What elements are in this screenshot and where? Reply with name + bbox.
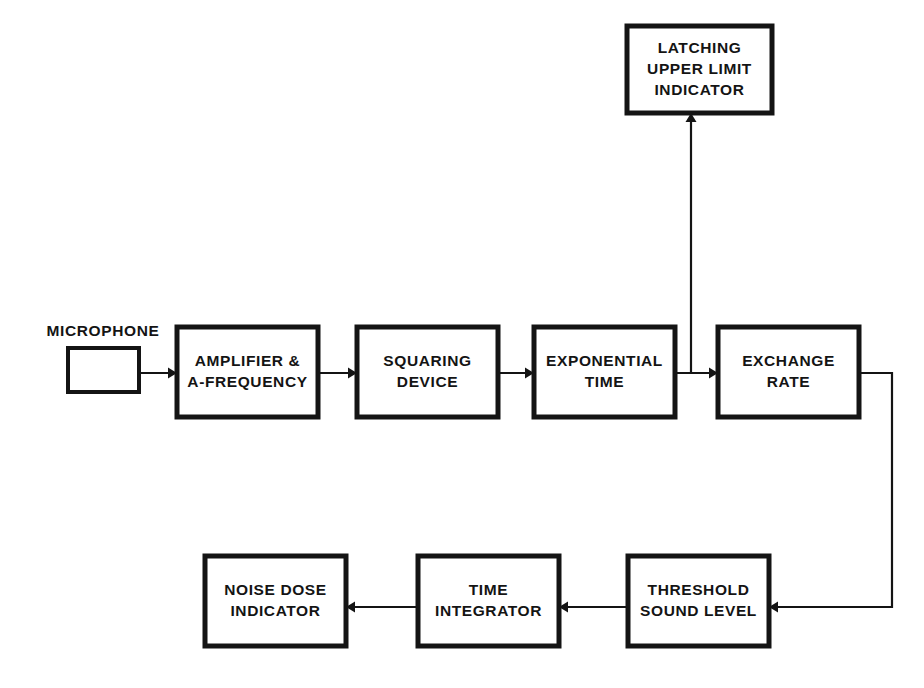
connector-amplifier-to-squaring bbox=[318, 368, 357, 379]
connector-microphone-to-amplifier bbox=[139, 368, 177, 379]
blocks-layer: AMPLIFIER &A-FREQUENCYSQUARINGDEVICEEXPO… bbox=[68, 26, 859, 646]
connector-exponential-to-exchange bbox=[675, 368, 718, 379]
block-diagram-canvas: AMPLIFIER &A-FREQUENCYSQUARINGDEVICEEXPO… bbox=[0, 0, 924, 688]
block-diagram-svg: AMPLIFIER &A-FREQUENCYSQUARINGDEVICEEXPO… bbox=[0, 0, 924, 688]
connector-exponential-to-latching bbox=[686, 113, 697, 373]
connector-integrator-to-noisedose bbox=[346, 602, 418, 613]
squaring-device-block[interactable]: SQUARINGDEVICE bbox=[357, 327, 498, 417]
external-labels-layer: MICROPHONE bbox=[47, 322, 160, 339]
time-integrator-block[interactable]: TIMEINTEGRATOR bbox=[418, 556, 559, 646]
threshold-sound-level-block[interactable]: THRESHOLDSOUND LEVEL bbox=[628, 556, 769, 646]
noise-dose-indicator-block[interactable]: NOISE DOSEINDICATOR bbox=[205, 556, 346, 646]
exchange-rate-block[interactable]: EXCHANGERATE bbox=[718, 327, 859, 417]
amplifier-a-frequency-block[interactable]: AMPLIFIER &A-FREQUENCY bbox=[177, 327, 318, 417]
connector-threshold-to-integrator bbox=[559, 602, 628, 613]
exponential-time-block[interactable]: EXPONENTIALTIME bbox=[534, 327, 675, 417]
latching-upper-limit-indicator-block[interactable]: LATCHINGUPPER LIMITINDICATOR bbox=[627, 26, 772, 113]
microphone-label: MICROPHONE bbox=[47, 322, 160, 339]
latching-upper-limit-indicator-block-label: LATCHINGUPPER LIMITINDICATOR bbox=[647, 39, 752, 98]
microphone-block[interactable] bbox=[68, 348, 139, 392]
connector-squaring-to-exponential bbox=[498, 368, 534, 379]
microphone-block-outline[interactable] bbox=[68, 348, 139, 392]
